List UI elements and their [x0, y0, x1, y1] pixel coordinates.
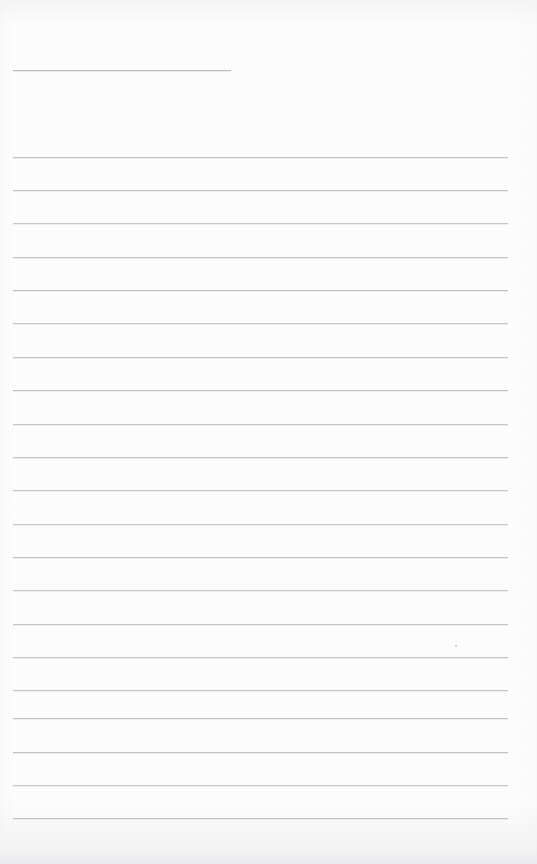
page-marks-layer	[0, 0, 537, 864]
notebook-page	[0, 0, 537, 864]
paper-speck	[455, 645, 457, 647]
